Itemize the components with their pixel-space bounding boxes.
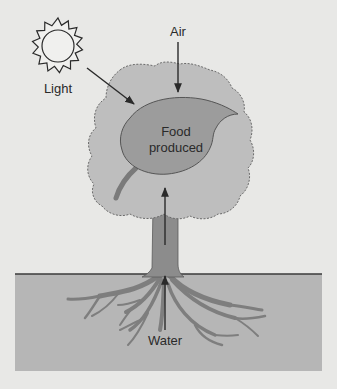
photosynthesis-diagram: Light Air Food produced Water (0, 0, 337, 389)
food-label-line2: produced (149, 140, 203, 155)
food-label-line1: Food (161, 124, 191, 139)
light-label: Light (44, 81, 73, 96)
air-label: Air (170, 24, 187, 39)
sun-icon (33, 18, 83, 73)
water-label: Water (148, 333, 183, 348)
